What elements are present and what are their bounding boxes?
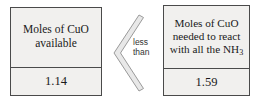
comparator-label: less than xyxy=(133,37,156,58)
left-quantity-box: Moles of CuO available 1.14 xyxy=(10,7,102,96)
right-box-label: Moles of CuO needed to react with all th… xyxy=(164,6,249,68)
right-box-label-main: Moles of CuO needed to react with all th… xyxy=(170,17,243,55)
right-box-value: 1.59 xyxy=(164,69,249,95)
comparator-group: less than xyxy=(108,10,156,96)
left-box-value: 1.14 xyxy=(11,68,101,95)
right-quantity-box: Moles of CuO needed to react with all th… xyxy=(163,5,250,96)
formula-subscript: 3 xyxy=(239,48,243,57)
left-box-label-text: Moles of CuO available xyxy=(13,23,99,50)
left-box-label: Moles of CuO available xyxy=(11,8,101,67)
right-box-label-text: Moles of CuO needed to react with all th… xyxy=(166,17,247,57)
comparison-diagram: Moles of CuO available 1.14 less than Mo… xyxy=(0,0,263,104)
